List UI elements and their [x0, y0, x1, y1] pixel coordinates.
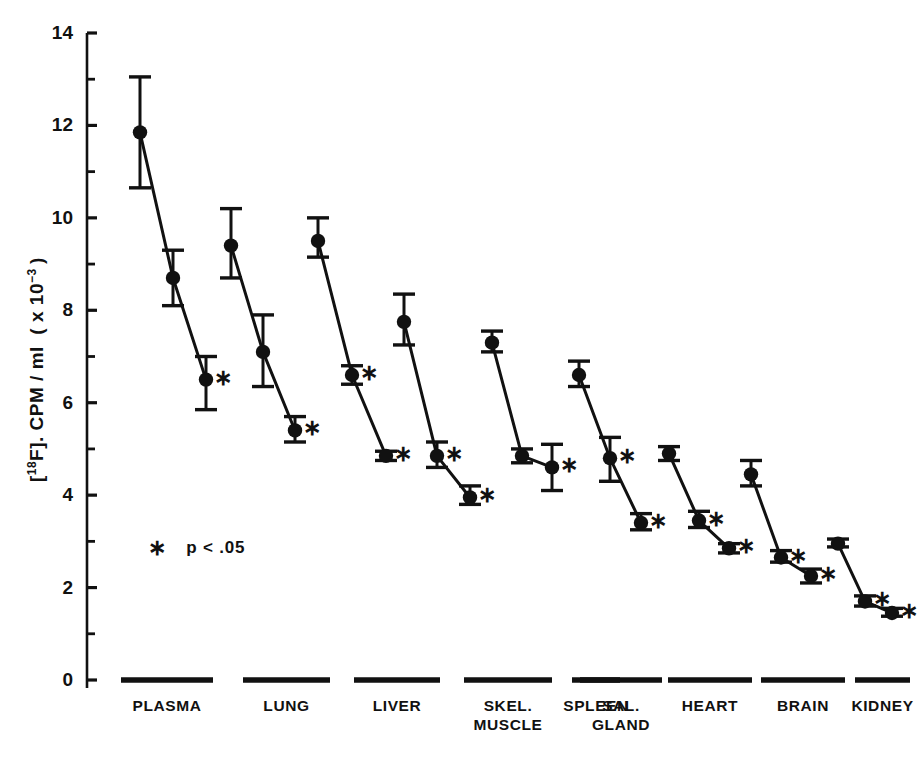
- data-group: ∗∗: [658, 446, 755, 558]
- significance-asterisk: ∗: [478, 482, 496, 507]
- data-point-marker: [662, 446, 676, 460]
- data-group: ∗: [129, 77, 232, 410]
- data-point-marker: [288, 423, 302, 437]
- data-point-marker: [133, 125, 147, 139]
- data-point-marker: [224, 238, 238, 252]
- data-point-marker: [744, 467, 758, 481]
- series-line: [404, 322, 470, 498]
- y-axis-tick-label: 14: [39, 23, 73, 42]
- data-point-marker: [885, 606, 899, 620]
- data-point-marker: [774, 550, 788, 564]
- y-axis-tick-label: 6: [39, 393, 73, 412]
- x-axis-category-label: PLASMA: [102, 696, 232, 715]
- y-axis-tick-label: 10: [39, 208, 73, 227]
- significance-asterisk: ∗: [649, 508, 667, 533]
- y-axis-tick-label: 4: [39, 485, 73, 504]
- data-point-marker: [603, 451, 617, 465]
- chart-plot-area: ∗∗∗∗∗∗∗∗∗∗∗∗∗∗∗: [0, 0, 918, 766]
- data-point-marker: [515, 449, 529, 463]
- data-point-marker: [166, 271, 180, 285]
- data-group: ∗∗: [568, 361, 667, 533]
- data-point-marker: [804, 569, 818, 583]
- significance-asterisk: ∗: [303, 415, 321, 440]
- significance-asterisk: ∗: [560, 452, 578, 477]
- data-group: ∗∗: [827, 536, 918, 623]
- significance-asterisk: ∗: [707, 506, 725, 531]
- data-group: ∗∗: [740, 460, 837, 586]
- legend-text: p < .05: [186, 538, 245, 557]
- significance-asterisk: ∗: [445, 441, 463, 466]
- data-group: ∗: [481, 331, 578, 490]
- data-point-marker: [634, 516, 648, 530]
- data-point-marker: [430, 449, 444, 463]
- significance-asterisk: ∗: [737, 533, 755, 558]
- data-point-marker: [463, 490, 477, 504]
- series-line: [318, 241, 386, 456]
- data-point-marker: [572, 368, 586, 382]
- significance-asterisk: ∗: [789, 543, 807, 568]
- data-group: ∗∗: [393, 294, 496, 507]
- significance-asterisk: ∗: [900, 598, 918, 623]
- data-point-marker: [199, 372, 213, 386]
- data-point-marker: [858, 594, 872, 608]
- data-point-marker: [256, 345, 270, 359]
- x-axis-category-label: KIDNEY: [818, 696, 918, 715]
- significance-asterisk: ∗: [360, 360, 378, 385]
- significance-asterisk: ∗: [618, 443, 636, 468]
- significance-asterisk: ∗: [394, 441, 412, 466]
- data-point-marker: [831, 536, 845, 550]
- data-point-marker: [722, 541, 736, 555]
- data-group: ∗: [220, 209, 321, 442]
- data-group: ∗∗: [307, 218, 412, 466]
- significance-legend: ∗ p < .05: [148, 535, 245, 561]
- data-point-marker: [485, 335, 499, 349]
- data-point-marker: [379, 449, 393, 463]
- legend-asterisk-icon: ∗: [148, 535, 167, 560]
- data-point-marker: [345, 368, 359, 382]
- series-line: [669, 454, 729, 549]
- significance-asterisk: ∗: [214, 365, 232, 390]
- significance-asterisk: ∗: [819, 561, 837, 586]
- data-point-marker: [397, 315, 411, 329]
- figure-root: [18F]. CPM / ml ( x 10−3 ) 14121086420 ∗…: [0, 0, 918, 766]
- y-axis-title-text: [18F]. CPM / ml ( x 10−3 ): [24, 258, 47, 483]
- y-axis-tick-label: 2: [39, 578, 73, 597]
- data-point-marker: [692, 513, 706, 527]
- y-axis-tick-label: 0: [39, 670, 73, 689]
- data-point-marker: [311, 234, 325, 248]
- y-axis-tick-label: 8: [39, 300, 73, 319]
- y-axis-tick-label: 12: [39, 115, 73, 134]
- data-point-marker: [545, 460, 559, 474]
